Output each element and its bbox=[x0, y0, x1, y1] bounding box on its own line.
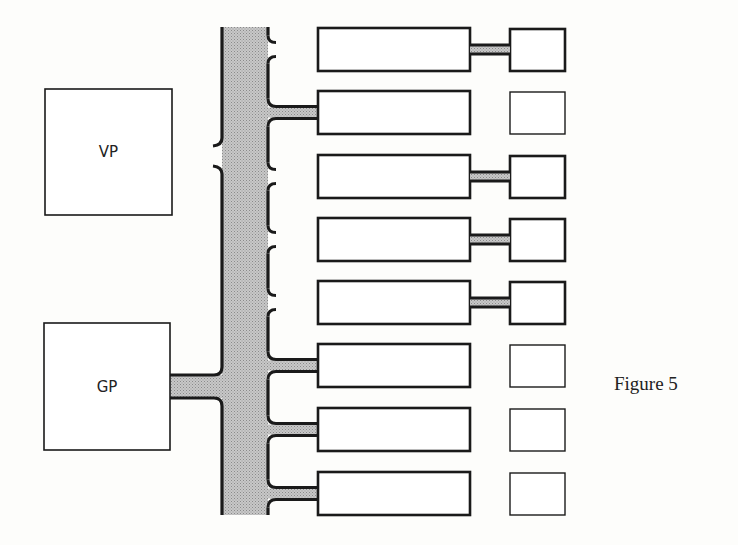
module-box bbox=[318, 91, 470, 134]
gp-label-text: GP bbox=[97, 378, 118, 396]
bus-left-edge bbox=[170, 27, 222, 515]
unit-box bbox=[510, 29, 565, 71]
module-box bbox=[318, 472, 470, 515]
bus-link bbox=[266, 425, 319, 435]
unit-box bbox=[510, 92, 565, 134]
unit-link bbox=[470, 174, 510, 180]
bus-link bbox=[266, 489, 319, 499]
module-box bbox=[318, 218, 470, 261]
module-box bbox=[318, 408, 470, 451]
vp-label: VP bbox=[45, 89, 172, 215]
figure-caption: Figure 5 bbox=[614, 373, 678, 395]
module-box bbox=[318, 344, 470, 387]
unit-link bbox=[470, 300, 510, 306]
unit-box bbox=[510, 282, 565, 324]
bus-notch bbox=[268, 226, 276, 254]
unit-box bbox=[510, 219, 565, 261]
bus-notch bbox=[268, 289, 276, 317]
unit-box bbox=[510, 156, 565, 198]
bus-link bbox=[266, 361, 319, 371]
vp-label-text: VP bbox=[99, 143, 118, 161]
unit-link bbox=[470, 47, 510, 53]
module-box bbox=[318, 281, 470, 324]
architecture-diagram bbox=[0, 0, 738, 545]
bus-fill bbox=[222, 27, 268, 515]
bus-link bbox=[266, 108, 319, 118]
unit-box bbox=[510, 345, 565, 387]
unit-link bbox=[470, 237, 510, 243]
unit-box bbox=[510, 409, 565, 451]
module-box bbox=[318, 155, 470, 198]
bus-notch bbox=[268, 163, 276, 191]
gp-bus-link bbox=[170, 375, 224, 398]
shared-bus bbox=[170, 27, 319, 515]
bus-notch bbox=[268, 36, 276, 64]
module-box bbox=[318, 28, 470, 71]
gp-label: GP bbox=[44, 323, 170, 450]
unit-box bbox=[510, 473, 565, 515]
